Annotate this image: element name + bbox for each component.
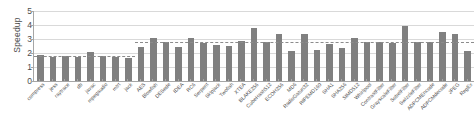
bar (188, 38, 195, 81)
y-axis-tick-labels: 012345 (18, 0, 32, 95)
bar (62, 56, 69, 81)
bar (226, 46, 233, 81)
y-tick-label: 0 (18, 77, 32, 86)
y-tick-label: 5 (18, 7, 32, 16)
bar (439, 32, 446, 81)
bar (138, 47, 145, 81)
bar (314, 50, 321, 81)
bar (389, 43, 396, 82)
y-tick-label: 4 (18, 21, 32, 30)
bar (263, 42, 270, 81)
bar (427, 42, 434, 81)
plot-area (33, 11, 474, 82)
bar (326, 44, 333, 81)
bar (213, 45, 220, 81)
bar (150, 38, 157, 81)
x-axis-tick-labels: compressjessraytracedbjavacmpegaudiomtrt… (33, 82, 473, 140)
bar (351, 38, 358, 81)
bar (288, 51, 295, 81)
y-tick-label: 1 (18, 63, 32, 72)
group-2-average (135, 42, 474, 43)
bar (339, 48, 346, 81)
bar (402, 26, 409, 81)
bar (163, 42, 170, 81)
bar (251, 28, 258, 81)
bar (100, 56, 107, 81)
bar (276, 34, 283, 81)
y-tick-label: 3 (18, 35, 32, 44)
group-1-average (34, 56, 135, 57)
bar (175, 47, 182, 81)
bar (364, 42, 371, 81)
y-tick-label: 2 (18, 49, 32, 58)
bar (464, 51, 471, 81)
bar (376, 42, 383, 81)
bar (414, 42, 421, 81)
bar (452, 34, 459, 81)
bar (75, 57, 82, 81)
bar (125, 58, 132, 81)
bar (50, 57, 57, 82)
bar (37, 55, 44, 81)
bar (200, 43, 207, 81)
bar (238, 41, 245, 81)
bar (112, 57, 119, 82)
bars-container (34, 11, 474, 81)
speedup-bar-chart: Speedup 012345 compressjessraytracedbjav… (0, 0, 475, 140)
